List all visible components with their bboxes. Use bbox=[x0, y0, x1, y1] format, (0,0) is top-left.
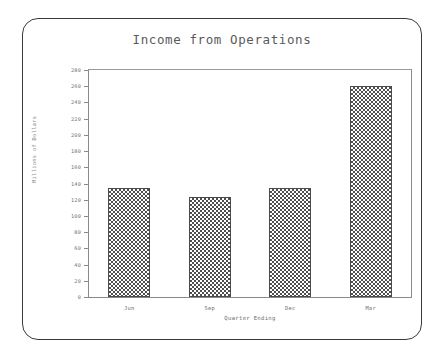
y-axis-tick-label: 260 bbox=[71, 83, 81, 89]
y-axis-tick bbox=[84, 135, 89, 136]
x-axis-title: Quarter Ending bbox=[88, 315, 412, 321]
y-axis-tick bbox=[84, 184, 89, 185]
y-axis-tick-label: 200 bbox=[71, 132, 81, 138]
y-axis-tick-label: 60 bbox=[74, 245, 81, 251]
bar-sep bbox=[189, 197, 231, 297]
chart-title: Income from Operations bbox=[0, 32, 444, 47]
y-axis-tick-label: 280 bbox=[71, 67, 81, 73]
y-axis-tick bbox=[84, 86, 89, 87]
bar-jun bbox=[108, 188, 150, 297]
y-axis-tick bbox=[84, 281, 89, 282]
y-axis-tick-label: 240 bbox=[71, 99, 81, 105]
y-axis-tick-label: 40 bbox=[74, 262, 81, 268]
x-axis-tick-label: Sep bbox=[205, 305, 215, 311]
y-axis-tick bbox=[84, 248, 89, 249]
chart-screenshot: Income from Operations 02040608010012014… bbox=[0, 0, 444, 360]
y-axis-tick-label: 20 bbox=[74, 278, 81, 284]
x-axis-tick-label: Mar bbox=[366, 305, 376, 311]
y-axis-tick bbox=[84, 70, 89, 71]
y-axis-tick bbox=[84, 265, 89, 266]
y-axis-tick bbox=[84, 297, 89, 298]
plot-inner bbox=[89, 70, 411, 297]
y-axis-tick-label: 220 bbox=[71, 116, 81, 122]
y-axis-tick-label: 140 bbox=[71, 181, 81, 187]
y-axis-tick bbox=[84, 200, 89, 201]
bar-dec bbox=[269, 188, 311, 297]
plot-area: 020406080100120140160180200220240260280J… bbox=[88, 69, 412, 298]
y-axis-tick-label: 180 bbox=[71, 148, 81, 154]
y-axis-tick bbox=[84, 102, 89, 103]
bar-mar bbox=[350, 86, 392, 297]
y-axis-tick bbox=[84, 216, 89, 217]
y-axis-tick-label: 80 bbox=[74, 229, 81, 235]
y-axis-tick bbox=[84, 151, 89, 152]
y-axis-tick bbox=[84, 119, 89, 120]
y-axis-tick-label: 160 bbox=[71, 164, 81, 170]
x-axis-tick-label: Dec bbox=[285, 305, 295, 311]
y-axis-tick bbox=[84, 232, 89, 233]
y-axis-title: Millions of Dollars bbox=[31, 116, 37, 183]
y-axis-tick-label: 120 bbox=[71, 197, 81, 203]
y-axis-tick-label: 0 bbox=[78, 294, 81, 300]
y-axis-tick bbox=[84, 167, 89, 168]
x-axis-tick-label: Jun bbox=[124, 305, 134, 311]
y-axis-tick-label: 100 bbox=[71, 213, 81, 219]
